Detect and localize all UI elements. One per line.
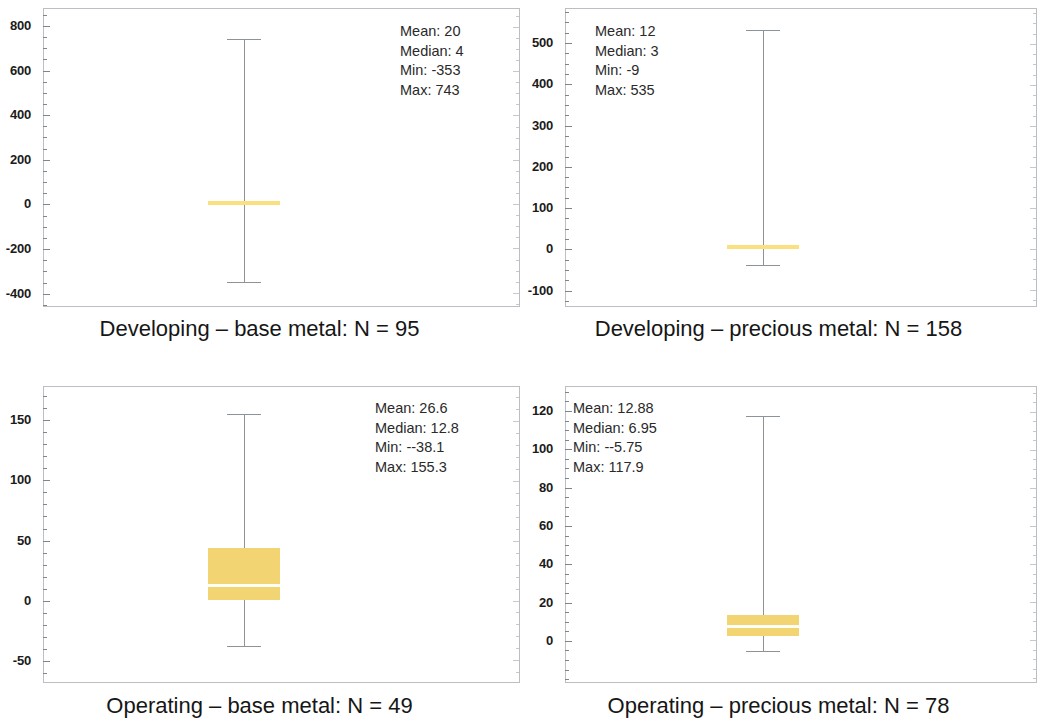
y-axis-minor-tick — [43, 227, 47, 228]
y-axis-mirror-tick — [1033, 555, 1036, 556]
y-axis-mirror-tick — [1033, 669, 1036, 670]
y-axis-major-tick — [565, 449, 572, 450]
y-axis-minor-tick — [565, 392, 569, 393]
y-axis-minor-tick — [43, 432, 47, 433]
y-axis-mirror-tick — [1033, 631, 1036, 632]
y-axis-mirror-tick — [1033, 469, 1036, 470]
stat-min: Min: -9 — [595, 61, 659, 81]
y-axis-minor-tick — [43, 516, 47, 517]
y-axis-mirror-tick — [1033, 218, 1036, 219]
stat-max: Max: 155.3 — [375, 458, 459, 478]
y-axis-minor-tick — [43, 193, 47, 194]
stat-min: Min: --5.75 — [573, 438, 657, 458]
y-axis-minor-tick — [43, 456, 47, 457]
y-axis-major-tick — [43, 601, 50, 602]
y-axis-minor-tick — [565, 280, 569, 281]
y-axis-minor-tick — [565, 478, 569, 479]
y-axis-minor-tick — [565, 270, 569, 271]
y-axis-minor-tick — [565, 497, 569, 498]
stat-max: Max: 743 — [400, 81, 464, 101]
y-axis-minor-tick — [565, 187, 569, 188]
y-axis-minor-tick — [565, 22, 569, 23]
y-axis-mirror-tick — [1030, 85, 1036, 86]
median-line — [727, 625, 799, 628]
y-axis-mirror-tick — [1030, 488, 1036, 489]
panel-caption: Developing – precious metal: N = 158 — [519, 316, 1038, 342]
panel-developing-base-metal: 8006004002000-200-400 Mean: 20 Median: 4… — [0, 0, 519, 363]
y-axis-minor-tick — [565, 229, 569, 230]
y-axis-minor-tick — [565, 468, 569, 469]
y-axis-mirror-tick — [1033, 516, 1036, 517]
y-axis-major-tick — [565, 411, 572, 412]
y-axis-minor-tick — [565, 177, 569, 178]
y-axis-tick-label: 40 — [509, 556, 553, 571]
y-axis-mirror-tick — [1033, 440, 1036, 441]
y-axis-mirror-tick — [1030, 526, 1036, 527]
y-axis-mirror-tick — [1033, 583, 1036, 584]
y-axis-minor-tick — [43, 673, 47, 674]
y-axis-mirror-tick — [1033, 678, 1036, 679]
y-axis-tick-label: 800 — [0, 18, 31, 33]
y-axis-major-tick — [565, 249, 572, 250]
y-axis-mirror-tick — [1033, 23, 1036, 24]
y-axis-minor-tick — [43, 216, 47, 217]
y-axis-major-tick — [43, 115, 50, 116]
y-axis-minor-tick — [43, 444, 47, 445]
y-axis-tick-label: 60 — [509, 518, 553, 533]
y-axis-minor-tick — [43, 408, 47, 409]
panel-operating-precious-metal: 120100806040200 Mean: 12.88 Median: 6.95… — [519, 363, 1038, 726]
y-axis-major-tick — [43, 541, 50, 542]
stat-min: Min: -353 — [400, 61, 464, 81]
y-axis-minor-tick — [565, 260, 569, 261]
stat-mean: Mean: 26.6 — [375, 399, 459, 419]
y-axis-mirror-tick — [1033, 259, 1036, 260]
y-axis-minor-tick — [565, 574, 569, 575]
y-axis-tick-label: -100 — [509, 283, 553, 298]
y-axis-major-tick — [565, 564, 572, 565]
y-axis-mirror-tick — [1030, 412, 1036, 413]
y-axis-mirror-tick — [1033, 478, 1036, 479]
y-axis-major-tick — [565, 603, 572, 604]
stat-median: Median: 6.95 — [573, 419, 657, 439]
y-axis-mirror-tick — [1033, 157, 1036, 158]
y-axis-major-tick — [43, 294, 50, 295]
y-axis-minor-tick — [565, 115, 569, 116]
y-axis-mirror-tick — [1030, 249, 1036, 250]
y-axis-minor-tick — [43, 104, 47, 105]
whisker-cap-upper — [746, 416, 780, 417]
y-axis-minor-tick — [565, 95, 569, 96]
box-iqr — [208, 201, 280, 205]
y-axis-minor-tick — [565, 536, 569, 537]
y-axis-mirror-tick — [1033, 497, 1036, 498]
y-axis-minor-tick — [43, 649, 47, 650]
y-axis-minor-tick — [565, 583, 569, 584]
y-axis-mirror-tick — [1030, 44, 1036, 45]
panel-developing-precious-metal: 5004003002001000-100 Mean: 12 Median: 3 … — [519, 0, 1038, 363]
y-axis-minor-tick — [565, 146, 569, 147]
y-axis-minor-tick — [43, 625, 47, 626]
stats-annotation: Mean: 26.6 Median: 12.8 Min: --38.1 Max:… — [375, 399, 459, 477]
y-axis-tick-label: -50 — [0, 653, 31, 668]
y-axis-tick-label: 0 — [509, 633, 553, 648]
y-axis-minor-tick — [565, 301, 569, 302]
whisker-cap-upper — [227, 39, 261, 40]
y-axis-tick-label: 20 — [509, 595, 553, 610]
y-axis-mirror-tick — [1033, 612, 1036, 613]
whisker-line — [244, 39, 245, 282]
stats-annotation: Mean: 20 Median: 4 Min: -353 Max: 743 — [400, 22, 464, 100]
whisker-cap-lower — [227, 646, 261, 647]
y-axis-mirror-tick — [1033, 574, 1036, 575]
y-axis-minor-tick — [565, 593, 569, 594]
y-axis-mirror-tick — [1033, 459, 1036, 460]
y-axis-mirror-tick — [1033, 177, 1036, 178]
y-axis-major-tick — [43, 420, 50, 421]
y-axis-mirror-tick — [1033, 54, 1036, 55]
stat-mean: Mean: 20 — [400, 22, 464, 42]
y-axis-tick-label: 600 — [0, 63, 31, 78]
y-axis-tick-label: 200 — [509, 159, 553, 174]
panel-caption: Operating – base metal: N = 49 — [0, 693, 519, 719]
y-axis-tick-label: 0 — [509, 241, 553, 256]
y-axis-mirror-tick — [1033, 64, 1036, 65]
y-axis-mirror-tick — [1033, 228, 1036, 229]
y-axis-minor-tick — [43, 149, 47, 150]
